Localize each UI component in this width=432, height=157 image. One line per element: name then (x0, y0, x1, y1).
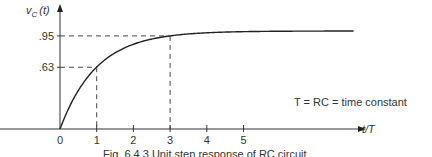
x-tick-label: 5 (240, 134, 246, 146)
x-tick-label: 0 (57, 134, 63, 146)
y-axis-arrow (57, 4, 63, 12)
x-axis-label: t/T (362, 123, 376, 135)
x-tick-label: 2 (130, 134, 136, 146)
response-curve (60, 31, 354, 129)
x-tick-label: 4 (204, 134, 210, 146)
chart: 012345.63.95 vC(t) t/T T = RC = time con… (0, 0, 432, 157)
y-tick-label: .95 (39, 30, 54, 42)
y-tick-label: .63 (39, 61, 54, 73)
x-tick-label: 3 (167, 134, 173, 146)
caption: Fig. 6.4.3 Unit step response of RC circ… (103, 148, 307, 157)
annotation: T = RC = time constant (294, 96, 407, 108)
y-axis-label: vC(t) (26, 4, 50, 19)
x-tick-label: 1 (94, 134, 100, 146)
